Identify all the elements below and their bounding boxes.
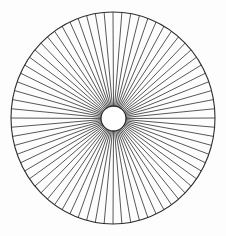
radial-wheel-diagram [0,0,226,236]
figure-canvas [0,0,226,236]
spoke-line [126,118,215,119]
spoke-line [11,118,101,119]
spoke-line [113,131,114,224]
inner-hub-circle [101,106,126,131]
spoke-line [113,12,114,106]
